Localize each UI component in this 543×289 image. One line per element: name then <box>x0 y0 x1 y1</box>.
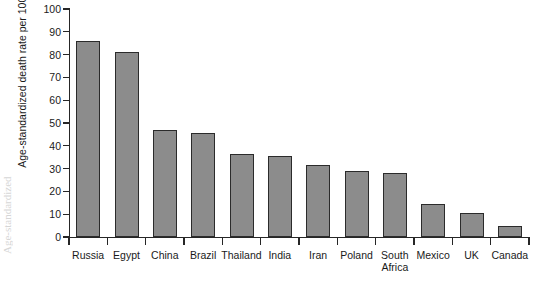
x-axis-label: UK <box>450 249 492 261</box>
x-tick <box>375 238 376 245</box>
bar <box>76 41 100 237</box>
x-axis-label: South Africa <box>374 249 416 273</box>
x-tick <box>452 238 453 245</box>
plot-area <box>69 9 529 237</box>
x-axis-label: Mexico <box>412 249 454 261</box>
x-tick <box>337 238 338 245</box>
bar <box>306 165 330 237</box>
bar <box>268 156 292 237</box>
x-axis-label: China <box>144 249 186 261</box>
x-tick-edge <box>68 238 69 245</box>
y-tick-label: 20 <box>27 186 61 196</box>
x-tick <box>413 238 414 245</box>
x-tick-edge <box>528 238 529 245</box>
x-tick <box>183 238 184 245</box>
y-tick-label: 50 <box>27 118 61 128</box>
x-axis-label: Russia <box>67 249 109 261</box>
bar <box>383 173 407 237</box>
bar <box>498 226 522 237</box>
bar <box>460 213 484 237</box>
bar <box>421 204 445 237</box>
x-tick <box>222 238 223 245</box>
bar <box>191 133 215 237</box>
y-tick-label: 100 <box>27 4 61 14</box>
bar-chart-figure: Age-standardized Age-standardized death … <box>0 0 543 289</box>
x-tick <box>490 238 491 245</box>
x-axis-label: Canada <box>489 249 531 261</box>
x-axis-label: India <box>259 249 301 261</box>
bar <box>345 171 369 237</box>
y-tick-label: 40 <box>27 141 61 151</box>
bar <box>115 52 139 237</box>
bar <box>230 154 254 237</box>
x-tick <box>260 238 261 245</box>
x-axis-label: Poland <box>335 249 377 261</box>
x-axis-label: Iran <box>297 249 339 261</box>
y-tick-label: 60 <box>27 95 61 105</box>
y-tick-label: 10 <box>27 209 61 219</box>
x-axis-label: Egypt <box>105 249 147 261</box>
x-tick <box>107 238 108 245</box>
y-tick-label: 90 <box>27 27 61 37</box>
bar <box>153 130 177 237</box>
x-tick <box>145 238 146 245</box>
y-tick-label: 0 <box>27 232 61 242</box>
scan-bleed-artifact: Age-standardized <box>1 168 15 254</box>
y-tick-label: 30 <box>27 164 61 174</box>
x-tick <box>298 238 299 245</box>
x-axis-label: Brazil <box>182 249 224 261</box>
x-axis-label: Thailand <box>220 249 262 261</box>
y-tick-label: 80 <box>27 50 61 60</box>
y-tick-label: 70 <box>27 72 61 82</box>
